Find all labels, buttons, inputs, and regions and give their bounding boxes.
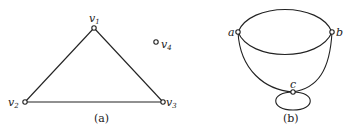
edge-v1-v2	[25, 28, 94, 102]
edge-a-b-lower	[238, 32, 332, 55]
graph-figure: v1 v2 v3 v4 (a) a b c (b)	[0, 0, 355, 137]
vertex-v2	[23, 100, 27, 104]
edge-a-c	[238, 32, 293, 92]
edge-v1-v3	[94, 28, 163, 102]
label-v4: v4	[161, 38, 172, 52]
vertex-v4	[154, 40, 158, 44]
vertex-b	[330, 30, 334, 34]
label-b: b	[336, 26, 343, 39]
label-c: c	[290, 78, 296, 91]
label-a: a	[228, 26, 235, 39]
label-v2: v2	[8, 96, 19, 110]
label-v3: v3	[166, 96, 177, 110]
vertex-v3	[161, 100, 165, 104]
edge-a-b-upper	[238, 10, 332, 33]
vertex-v1	[92, 26, 96, 30]
caption-a: (a)	[94, 112, 109, 125]
figure-a: v1 v2 v3 v4 (a)	[8, 12, 177, 125]
caption-b: (b)	[283, 112, 299, 125]
vertex-a	[236, 30, 240, 34]
label-v1: v1	[89, 12, 100, 26]
figure-b: a b c (b)	[228, 10, 343, 126]
